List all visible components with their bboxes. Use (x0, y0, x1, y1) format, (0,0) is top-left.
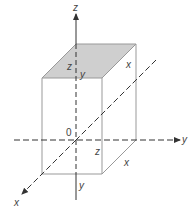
top-y-label: y (80, 70, 85, 80)
y-axis-label: y (182, 135, 187, 145)
z-axis-label: z (73, 3, 78, 13)
top-face (42, 44, 136, 78)
x-axis-label: x (14, 198, 19, 208)
bottom-y-label: y (79, 181, 84, 191)
coordinate-diagram (0, 0, 191, 212)
origin-label: 0 (66, 128, 72, 138)
top-z-label: z (67, 62, 72, 72)
top-x-label: x (126, 60, 131, 70)
bottom-x-label: x (124, 158, 129, 168)
side-z-label: z (95, 147, 100, 157)
x-axis-lower (22, 140, 76, 194)
